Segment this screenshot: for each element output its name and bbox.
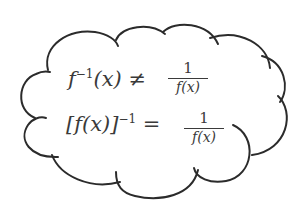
denominator: f(x) [192, 130, 216, 145]
thought-cloud [0, 0, 295, 206]
denominator: f(x) [176, 80, 200, 95]
numerator: 1 [199, 111, 209, 126]
not-equal-sign: ≠ [128, 67, 146, 91]
equal-sign: = [143, 112, 161, 136]
numerator: 1 [183, 61, 193, 76]
equation-1-lhs: f−1(x) ≠ [68, 68, 146, 90]
inverse-exponent: −1 [76, 67, 94, 81]
equation-2-fraction: 1 f(x) [184, 111, 224, 145]
equation-1-fraction: 1 f(x) [168, 61, 208, 95]
argument: (x) [93, 67, 121, 91]
function-symbol: f [68, 67, 76, 91]
inverse-exponent: −1 [118, 112, 136, 126]
equation-2-lhs: [f(x)]−1 = [66, 113, 160, 135]
bracketed-function: [f(x)] [66, 112, 118, 136]
